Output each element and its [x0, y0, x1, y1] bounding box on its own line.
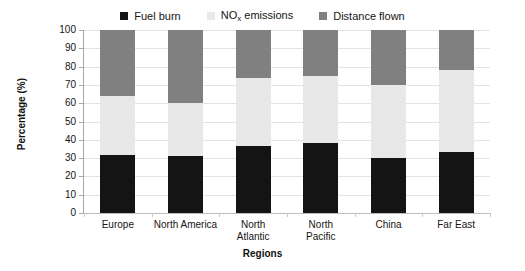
y-axis-tick-label: 40 — [4, 135, 76, 145]
y-axis-tick-mark — [79, 85, 83, 86]
legend-label: Distance flown — [333, 10, 405, 22]
bar-group[interactable] — [236, 30, 271, 213]
x-axis-tick-mark — [219, 213, 220, 217]
y-axis-tick-label: 70 — [4, 80, 76, 90]
bar-segment[interactable] — [100, 155, 135, 213]
legend-swatch-icon — [319, 12, 327, 20]
legend-swatch-icon — [207, 12, 215, 20]
bar-segment[interactable] — [168, 103, 203, 156]
gridline — [84, 67, 490, 68]
bar-group[interactable] — [303, 30, 338, 213]
bar-segment[interactable] — [100, 96, 135, 155]
bar-segment[interactable] — [439, 152, 474, 213]
plot-area — [84, 30, 490, 213]
y-axis-tick-mark — [79, 122, 83, 123]
x-axis-title: Regions — [0, 248, 525, 259]
legend-swatch-icon — [120, 12, 128, 20]
gridline — [84, 158, 490, 159]
gridline — [84, 122, 490, 123]
y-axis-tick-labels: 0102030405060708090100 — [0, 0, 76, 271]
y-axis-tick-label: 30 — [4, 153, 76, 163]
gridline — [84, 85, 490, 86]
bar-segment[interactable] — [371, 30, 406, 85]
bar-segment[interactable] — [303, 30, 338, 76]
x-axis-category-label: Far East — [406, 219, 506, 231]
y-axis-tick-mark — [79, 48, 83, 49]
legend-entry[interactable]: Distance flown — [319, 10, 405, 22]
bar-segment[interactable] — [303, 143, 338, 213]
y-axis-tick-label: 0 — [4, 208, 76, 218]
bar-group[interactable] — [100, 30, 135, 213]
y-axis-tick-mark — [79, 213, 83, 214]
y-axis-tick-mark — [79, 103, 83, 104]
y-axis-tick-mark — [79, 67, 83, 68]
gridline — [84, 103, 490, 104]
gridline — [84, 195, 490, 196]
y-axis-tick-label: 20 — [4, 171, 76, 181]
y-axis-tick-label: 50 — [4, 117, 76, 127]
bar-segment[interactable] — [236, 78, 271, 147]
x-axis-label-line: Far East — [406, 219, 506, 231]
legend-label: Fuel burn — [134, 10, 180, 22]
bar-segment[interactable] — [439, 30, 474, 70]
legend-label: NOx emissions — [221, 9, 293, 23]
bar-segment[interactable] — [168, 156, 203, 213]
bar-segment[interactable] — [371, 85, 406, 158]
gridline — [84, 140, 490, 141]
x-axis-tick-mark — [355, 213, 356, 217]
x-axis-tick-mark — [422, 213, 423, 217]
x-axis-tick-mark — [84, 213, 85, 217]
y-axis-tick-label: 80 — [4, 62, 76, 72]
y-axis-tick-mark — [79, 176, 83, 177]
bar-segment[interactable] — [236, 146, 271, 213]
legend-entry[interactable]: NOx emissions — [207, 9, 293, 23]
y-axis-tick-label: 60 — [4, 98, 76, 108]
bar-group[interactable] — [439, 30, 474, 213]
gridline — [84, 48, 490, 49]
bar-segment[interactable] — [236, 30, 271, 78]
x-axis-tick-mark — [152, 213, 153, 217]
bar-segment[interactable] — [168, 30, 203, 103]
bar-segment[interactable] — [100, 30, 135, 96]
bar-segment[interactable] — [371, 158, 406, 213]
y-axis-tick-mark — [79, 30, 83, 31]
bar-segment[interactable] — [303, 76, 338, 144]
y-axis-tick-mark — [79, 158, 83, 159]
y-axis-tick-label: 100 — [4, 25, 76, 35]
y-axis-tick-mark — [79, 140, 83, 141]
legend-entry[interactable]: Fuel burn — [120, 10, 180, 22]
chart-legend: Fuel burnNOx emissionsDistance flown — [0, 9, 525, 23]
stacked-bar-chart: Fuel burnNOx emissionsDistance flown Per… — [0, 0, 525, 271]
y-axis-tick-label: 90 — [4, 43, 76, 53]
x-axis-label-line: Pacific — [271, 231, 371, 243]
gridline — [84, 30, 490, 31]
gridline — [84, 176, 490, 177]
x-axis-tick-mark — [490, 213, 491, 217]
x-axis-tick-mark — [287, 213, 288, 217]
bar-group[interactable] — [168, 30, 203, 213]
bar-group[interactable] — [371, 30, 406, 213]
bar-segment[interactable] — [439, 70, 474, 151]
y-axis-tick-label: 10 — [4, 190, 76, 200]
y-axis-tick-mark — [79, 195, 83, 196]
